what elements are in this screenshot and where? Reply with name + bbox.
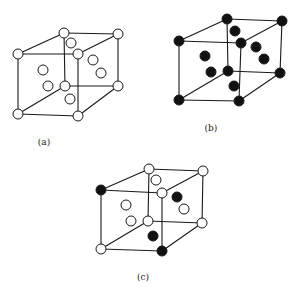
cube-edge xyxy=(101,221,148,249)
cube-edge xyxy=(64,33,65,86)
face-center-atom-icon xyxy=(121,200,131,210)
corner-atom-icon xyxy=(144,164,154,174)
unit-cell-a xyxy=(13,28,123,121)
corner-atom-icon xyxy=(174,36,184,46)
face-center-atom-icon xyxy=(148,231,158,241)
face-center-atom-icon xyxy=(251,42,261,52)
cube-edge xyxy=(227,19,282,21)
corner-atom-icon xyxy=(157,246,167,256)
face-center-atom-icon xyxy=(206,67,216,77)
face-center-atom-icon xyxy=(229,81,239,91)
corner-atom-icon xyxy=(223,66,233,76)
corner-atom-icon xyxy=(73,111,83,121)
face-center-atom-icon xyxy=(151,175,161,185)
face-center-atom-icon xyxy=(66,38,76,48)
cube-edge xyxy=(148,221,202,223)
face-center-atom-icon xyxy=(126,216,136,226)
corner-atom-icon xyxy=(113,81,123,91)
cube-edge xyxy=(179,100,239,101)
face-center-atom-icon xyxy=(179,204,189,214)
face-center-atom-icon xyxy=(38,65,48,75)
corner-atom-icon xyxy=(73,49,83,59)
cube-edge xyxy=(18,114,78,116)
cube-edge xyxy=(179,19,227,41)
cube-edge xyxy=(101,190,162,193)
cube-edge xyxy=(148,169,149,221)
corner-atom-icon xyxy=(157,188,167,198)
crystal-lattice-figure: (a) (b) (c) xyxy=(0,0,299,291)
unit-cell-c xyxy=(96,164,208,256)
corner-atom-icon xyxy=(96,185,106,195)
face-center-atom-icon xyxy=(200,51,210,61)
cube-edge xyxy=(78,34,118,54)
cube-edge xyxy=(64,33,118,34)
cube-edge xyxy=(179,41,241,43)
corner-atom-icon xyxy=(60,81,70,91)
corner-atom-icon xyxy=(13,109,23,119)
corner-atom-icon xyxy=(174,95,184,105)
corner-atom-icon xyxy=(13,49,23,59)
cube-edge xyxy=(239,73,280,101)
face-center-atom-icon xyxy=(259,54,269,64)
panel-label-c: (c) xyxy=(137,272,149,282)
corner-atom-icon xyxy=(234,96,244,106)
cube-edge xyxy=(162,171,203,193)
lattice-diagram-svg: (a) (b) (c) xyxy=(0,0,299,291)
face-center-atom-icon xyxy=(43,81,53,91)
cube-edge xyxy=(78,86,118,116)
cube-edge xyxy=(149,169,203,171)
corner-atom-icon xyxy=(222,14,232,24)
cube-edge xyxy=(162,223,202,251)
face-center-atom-icon xyxy=(172,192,182,202)
cube-edge xyxy=(228,71,280,73)
cube-edge xyxy=(241,21,282,43)
cube-edge xyxy=(179,71,228,100)
corner-atom-icon xyxy=(275,68,285,78)
cube-edge xyxy=(18,33,64,54)
cube-edge xyxy=(101,169,149,190)
cube-edge xyxy=(18,86,65,114)
corner-atom-icon xyxy=(197,218,207,228)
corner-atom-icon xyxy=(198,166,208,176)
cube-edge xyxy=(280,21,282,73)
panel-label-b: (b) xyxy=(205,123,218,133)
face-center-atom-icon xyxy=(65,94,75,104)
corner-atom-icon xyxy=(113,29,123,39)
face-center-atom-icon xyxy=(88,55,98,65)
cube-edge xyxy=(202,171,203,223)
cube-edge xyxy=(101,249,162,251)
cube-edge xyxy=(227,19,228,71)
panel-label-a: (a) xyxy=(38,137,50,147)
corner-atom-icon xyxy=(236,38,246,48)
corner-atom-icon xyxy=(96,244,106,254)
corner-atom-icon xyxy=(143,216,153,226)
face-center-atom-icon xyxy=(230,26,240,36)
corner-atom-icon xyxy=(59,28,69,38)
corner-atom-icon xyxy=(277,16,287,26)
face-center-atom-icon xyxy=(96,68,106,78)
unit-cell-b xyxy=(174,14,287,106)
